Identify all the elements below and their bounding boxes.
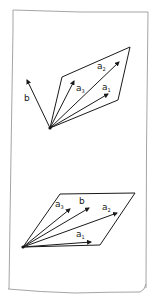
paper-sheet [8,10,148,293]
top-label-a3: a3 [76,83,85,94]
paper-left-edge [9,10,13,289]
bottom-origin-point [21,245,24,248]
bottom-vector-a3 [23,209,70,247]
paper-bottom-edge [8,284,146,293]
top-diagram: b a3 a2 a1 [24,47,130,130]
top-label-a2: a2 [97,61,106,72]
top-origin-point [48,126,51,129]
paper-top-edge [13,10,148,12]
bottom-label-b: b [79,196,85,206]
bottom-label-a2: a2 [102,202,111,213]
bottom-label-a1: a1 [76,229,85,240]
top-vector-b [27,80,50,128]
bottom-vector-a2 [23,213,117,247]
bottom-label-a3: a3 [55,199,64,210]
paper-right-edge [146,12,148,288]
top-vector-a2 [50,62,119,128]
top-label-a1: a1 [102,82,111,93]
sketch-canvas: b a3 a2 a1 a3 b a2 a1 [0,0,158,302]
bottom-vector-b [23,208,89,247]
top-label-b: b [24,93,30,103]
bottom-diagram: a3 b a2 a1 [21,193,135,249]
